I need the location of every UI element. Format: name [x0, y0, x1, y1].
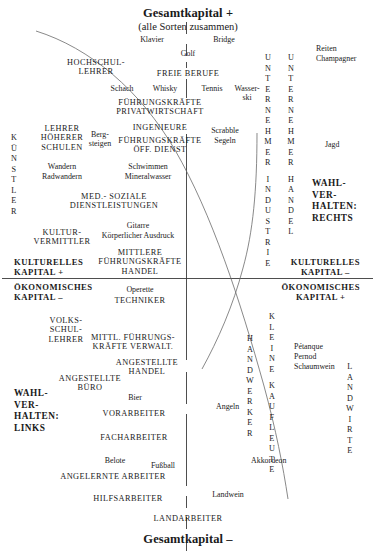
- occupation-fuehrungskraefte-privatwirtschaft: FÜHRUNGSKRÄFTE PRIVATWIRTSCHAFT: [116, 98, 204, 117]
- vertical-letter: M: [286, 137, 295, 148]
- vertical-label-unternehmer-handel: UNTERNEHMER HANDEL: [286, 32, 295, 259]
- vertical-letter: T: [263, 227, 272, 238]
- quadrant-label-oekonomisches-kapital-minus: ÖKONOMISCHES KAPITAL –: [14, 283, 93, 302]
- practice-wasserski: Wasser- ski: [234, 85, 259, 103]
- vertical-letter: R: [263, 238, 272, 249]
- practice-tennis: Tennis: [202, 85, 223, 94]
- occupation-hilfsarbeiter: HILFSARBEITER: [93, 494, 162, 503]
- occupation-hochschullehrer: HOCHSCHUL- LEHRER: [67, 58, 125, 77]
- vertical-letter: R: [345, 425, 354, 436]
- vertical-label-landwirte: LANDWIRTE: [345, 341, 354, 478]
- vertical-letter: E: [286, 116, 295, 127]
- vertical-letter: E: [263, 259, 272, 270]
- vertical-letter: E: [267, 333, 276, 344]
- practice-bridge: Bridge: [213, 36, 234, 45]
- vertical-label-kuenstler: KÜNSTLER: [9, 112, 18, 238]
- vertical-letter: E: [263, 148, 272, 159]
- vertical-letter: E: [286, 217, 295, 228]
- vertical-letter: A: [286, 185, 295, 196]
- vertical-letter: S: [9, 165, 18, 176]
- practice-operette: Operette: [126, 286, 153, 295]
- practice-schaumwein: Schaumwein: [294, 363, 335, 372]
- occupation-angestellte-handel: ANGESTELLTE HANDEL: [116, 358, 178, 377]
- occupation-mittl-fuehrungskraefte-verwalt: MITTL. FÜHRUNGS- KRÄFTE VERWALT.: [91, 333, 175, 352]
- vertical-letters-landwirte: LANDWIRTE: [345, 362, 354, 457]
- vertical-letter: N: [245, 355, 254, 366]
- vertical-letter: N: [263, 106, 272, 117]
- vertical-letter: D: [245, 366, 254, 377]
- vertical-letter: I: [263, 175, 272, 186]
- vertical-letter: E: [286, 148, 295, 159]
- vertical-letter: N: [263, 64, 272, 75]
- vertical-letter: L: [267, 423, 276, 434]
- practice-whisky: Whisky: [153, 85, 178, 94]
- vertical-letter: E: [245, 387, 254, 398]
- vertical-letter: U: [286, 53, 295, 64]
- practice-segeln: Segeln: [214, 137, 235, 146]
- occupation-vorarbeiter: VORARBEITER: [102, 409, 165, 418]
- vertical-letter: H: [245, 334, 254, 345]
- vertical-letter: D: [286, 206, 295, 217]
- vertical-letter: D: [263, 196, 272, 207]
- practice-schach: Schach: [111, 85, 134, 94]
- vertical-letter: H: [286, 127, 295, 138]
- vertical-letter: N: [345, 383, 354, 394]
- quadrant-label-kulturelles-kapital-plus: KULTURELLES KAPITAL +: [14, 258, 83, 277]
- vertical-letter: R: [9, 207, 18, 218]
- vertical-letter: D: [345, 394, 354, 405]
- vertical-label-kleine-kaufleute: KLEINE KAUFLEUTE: [267, 291, 276, 497]
- quadrant-label-kulturelles-kapital-minus: KULTURELLES KAPITAL –: [291, 258, 360, 277]
- practice-reiten: Reiten: [316, 45, 337, 54]
- vertical-letters-handwerker: HANDWERKER: [245, 334, 254, 439]
- vertical-letter: E: [263, 85, 272, 96]
- vertical-letter: E: [286, 85, 295, 96]
- social-space-diagram: Gesamtkapital + (alle Sorten zusammen) K…: [0, 0, 375, 554]
- vertical-letter: U: [267, 444, 276, 455]
- practice-bier: Bier: [128, 394, 142, 403]
- page-title-gesamtkapital-minus: Gesamtkapital –: [143, 532, 232, 546]
- occupation-techniker: TECHNIKER: [114, 296, 165, 305]
- practice-belote: Belote: [105, 457, 126, 466]
- vertical-letter: T: [345, 436, 354, 447]
- vertical-letters-kleine-kaufleute: KLEINE KAUFLEUTE: [267, 312, 276, 476]
- vertical-letter: A: [345, 373, 354, 384]
- vertical-label-unternehmer-industrie: UNTERNEHMER INDUSTRIE: [263, 32, 272, 290]
- vertical-letter: N: [263, 185, 272, 196]
- practice-bergsteigen: Berg- steigen: [89, 131, 111, 149]
- practice-golf: Golf: [181, 50, 195, 59]
- vertical-letter: N: [286, 106, 295, 117]
- practice-petanque: Pétanque: [294, 343, 323, 352]
- vertical-letter: R: [245, 429, 254, 440]
- vertical-letters-unternehmer-industrie: UNTERNEHMER INDUSTRIE: [263, 53, 272, 269]
- practice-pernod: Pernod: [294, 353, 316, 362]
- vertical-letter: F: [267, 413, 276, 424]
- occupation-med-soziale-dienstleistungen: MED.- SOZIALE DIENSTLEISTUNGEN: [70, 192, 158, 211]
- vertical-letters-kuenstler: KÜNSTLER: [9, 133, 18, 217]
- vertical-letter: E: [245, 418, 254, 429]
- vertical-letter: R: [286, 95, 295, 106]
- vertical-letter: K: [267, 312, 276, 323]
- vertical-letter: E: [263, 116, 272, 127]
- occupation-ingenieure: INGENIEURE: [133, 123, 188, 132]
- occupation-angestellte-buero: ANGESTELLTE BÜRO: [59, 374, 121, 393]
- vertical-letter: I: [263, 248, 272, 259]
- occupation-lehrer-hoeherer-schulen: LEHRER HÖHERER SCHULEN: [41, 124, 83, 152]
- vertical-label-handwerker: HANDWERKER: [245, 313, 254, 460]
- vertical-letter: L: [286, 227, 295, 238]
- vertical-letter: R: [286, 158, 295, 169]
- occupation-landarbeiter: LANDARBEITER: [153, 514, 222, 523]
- vertical-letter: L: [345, 362, 354, 373]
- quadrant-label-oekonomisches-kapital-plus: ÖKONOMISCHES KAPITAL +: [281, 283, 360, 302]
- vertical-letter: N: [286, 64, 295, 75]
- page-title-gesamtkapital-plus: Gesamtkapital +: [143, 6, 233, 20]
- vertical-letter: R: [263, 158, 272, 169]
- occupation-volksschullehrer: VOLKS- SCHUL- LEHRER: [49, 316, 84, 344]
- vertical-letter: E: [267, 434, 276, 445]
- vertical-letter: N: [267, 354, 276, 365]
- vertical-letter: T: [263, 74, 272, 85]
- practice-gitarre: Gitarre: [127, 222, 149, 231]
- vertical-letter: L: [267, 323, 276, 334]
- vertical-letter: L: [9, 186, 18, 197]
- vertical-letter: E: [345, 446, 354, 457]
- vertical-letter: W: [345, 404, 354, 415]
